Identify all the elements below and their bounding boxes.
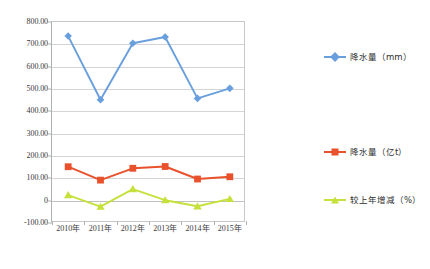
y-axis-tick-label: -100.00 <box>24 219 48 227</box>
legend-marker-diamond-icon <box>330 52 340 62</box>
data-point-marker <box>65 163 72 170</box>
data-point-marker <box>97 96 105 104</box>
data-point-marker <box>226 173 233 180</box>
legend-item[interactable]: 降水量（mm） <box>324 52 412 62</box>
y-axis-tick-label: 400.00 <box>27 107 48 115</box>
legend-label: 较上年增减（%） <box>350 195 421 205</box>
y-axis-tick-label: 100.00 <box>27 174 48 182</box>
data-point-marker <box>64 191 72 198</box>
figure-caption <box>0 257 430 269</box>
data-point-marker <box>64 32 72 40</box>
x-axis-tick-label: 2015年 <box>218 224 242 233</box>
legend-label: 降水量（亿t） <box>350 147 407 157</box>
y-axis-tick-label: 600.00 <box>27 63 48 71</box>
data-point-marker <box>129 165 136 172</box>
data-point-marker <box>97 177 104 184</box>
data-point-marker <box>226 195 234 202</box>
x-axis-tick-label: 2014年 <box>186 224 210 233</box>
series-triangle <box>64 185 234 210</box>
legend-marker-triangle-icon <box>331 197 339 204</box>
series-line <box>68 166 230 180</box>
series-square <box>65 163 233 183</box>
y-axis-tick-label: 300.00 <box>27 130 48 138</box>
data-point-marker <box>129 185 137 192</box>
legend-marker-square-icon <box>332 149 339 156</box>
legend-swatch <box>324 195 346 205</box>
series-diamond <box>64 32 233 103</box>
legend-swatch <box>324 52 346 62</box>
legend-item[interactable]: 较上年增减（%） <box>324 195 421 205</box>
x-axis-tick-label: 2013年 <box>153 224 177 233</box>
x-axis-tick-label: 2010年 <box>56 224 80 233</box>
series-line <box>68 189 230 207</box>
x-axis-tick-mark <box>246 221 247 225</box>
y-axis-tick-label: 700.00 <box>27 40 48 48</box>
chart-legend: 降水量（mm）降水量（亿t）较上年增减（%） <box>324 21 430 222</box>
legend-label: 降水量（mm） <box>350 52 412 62</box>
series-layer <box>52 22 246 223</box>
x-axis-tick-label: 2011年 <box>89 224 113 233</box>
legend-swatch <box>324 147 346 157</box>
series-line <box>68 36 230 100</box>
data-point-marker <box>161 33 169 41</box>
x-axis-tick-label: 2012年 <box>121 224 145 233</box>
y-axis-tick-label: 500.00 <box>27 85 48 93</box>
y-axis-tick-label: 800.00 <box>27 18 48 26</box>
data-point-marker <box>194 176 201 183</box>
y-axis-tick-label: 200.00 <box>27 152 48 160</box>
legend-item[interactable]: 降水量（亿t） <box>324 147 407 157</box>
plot-area: 800.00700.00600.00500.00400.00300.00200.… <box>51 21 245 222</box>
data-point-marker <box>226 85 234 93</box>
data-point-marker <box>162 163 169 170</box>
data-point-marker <box>129 39 137 47</box>
chart-container: 800.00700.00600.00500.00400.00300.00200.… <box>0 0 430 269</box>
data-point-marker <box>194 95 202 103</box>
